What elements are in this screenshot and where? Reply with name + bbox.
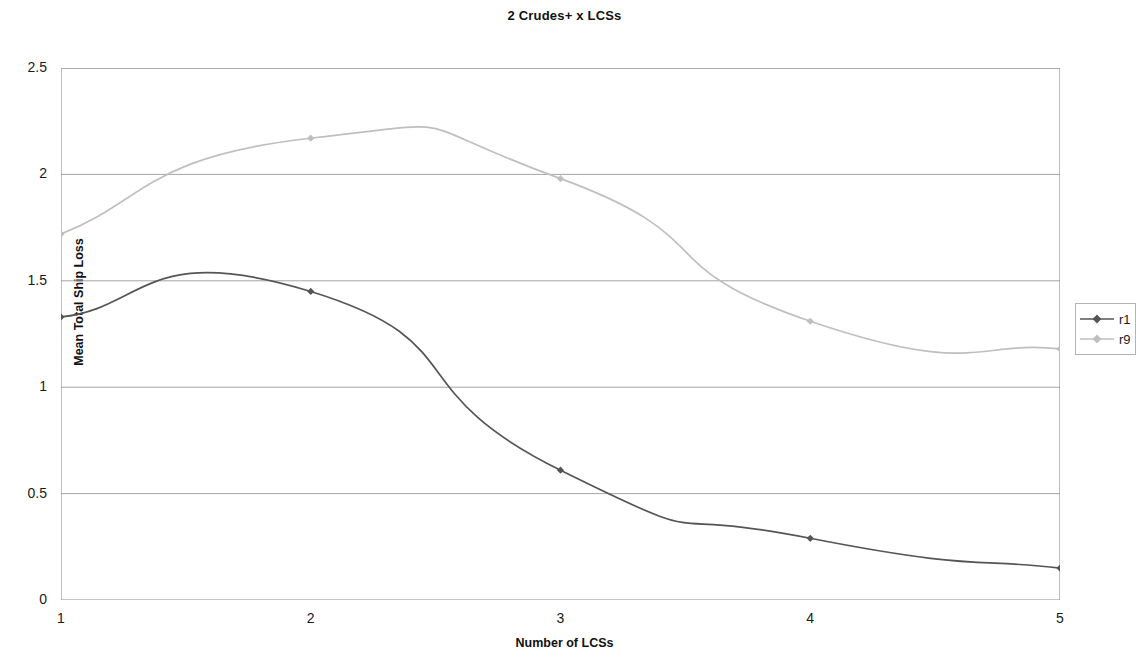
x-tick-label: 1 [41, 610, 81, 626]
y-tick-label: 2.5 [0, 59, 47, 75]
data-point-marker-r1 [307, 288, 314, 295]
series-r1 [61, 273, 1060, 572]
x-tick-label: 5 [1040, 610, 1080, 626]
data-point-marker-r9 [1056, 345, 1060, 352]
legend-label-r1: r1 [1119, 312, 1131, 327]
y-tick-label: 0 [0, 591, 47, 607]
x-tick-label: 3 [541, 610, 581, 626]
chart-legend: r1 r9 [1075, 303, 1136, 355]
y-tick-label: 1 [0, 378, 47, 394]
x-tick-label: 4 [790, 610, 830, 626]
y-tick-label: 1.5 [0, 272, 47, 288]
data-point-marker-r1 [557, 467, 564, 474]
series-line-r9 [61, 127, 1060, 353]
legend-swatch-line-icon [1078, 332, 1116, 346]
plot-area [61, 68, 1060, 600]
legend-label-r9: r9 [1119, 332, 1131, 347]
series-r9 [61, 127, 1060, 353]
data-point-marker-r1 [61, 313, 65, 320]
data-point-marker-r1 [807, 535, 814, 542]
chart-title: 2 Crudes+ x LCSs [0, 8, 1129, 23]
data-point-marker-r9 [61, 230, 65, 237]
legend-item-r9[interactable]: r9 [1078, 329, 1131, 349]
plot-canvas [61, 68, 1060, 600]
data-point-marker-r9 [807, 318, 814, 325]
legend-item-r1[interactable]: r1 [1078, 309, 1131, 329]
series-line-r1 [61, 273, 1060, 568]
legend-swatch-line-icon [1078, 312, 1116, 326]
x-axis-title: Number of LCSs [0, 636, 1129, 650]
data-point-marker-r9 [307, 135, 314, 142]
x-tick-label: 2 [291, 610, 331, 626]
y-tick-label: 2 [0, 165, 47, 181]
data-point-marker-r1 [1056, 564, 1060, 571]
y-tick-label: 0.5 [0, 485, 47, 501]
data-point-marker-r9 [557, 175, 564, 182]
